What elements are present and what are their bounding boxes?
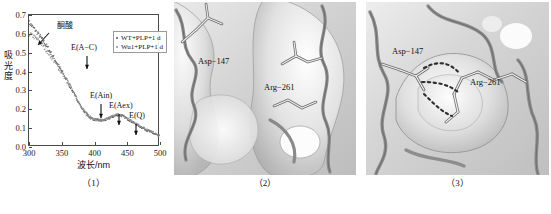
y-axis-label: 吸光度 xyxy=(2,50,14,82)
molecular-surface-2: Asp−147 Arg−261 xyxy=(174,2,356,175)
panel-absorbance-spectrum: 吸光度 3003504004505000.00.10.20.30.40.50.6… xyxy=(0,0,172,214)
x-tick-mark xyxy=(160,142,161,145)
x-tick-label: 400 xyxy=(88,148,101,158)
annotation-label-5: E(Q) xyxy=(129,111,145,120)
annotation-arrow-head-2 xyxy=(85,65,89,69)
y-tick-mark xyxy=(29,53,32,54)
annotation-arrow-head-5 xyxy=(134,131,138,135)
y-tick-label: 0.3 xyxy=(15,85,29,95)
y-tick-mark xyxy=(29,90,32,91)
panel1-caption: （1） xyxy=(28,176,159,189)
annotation-arrow-head-4 xyxy=(117,121,121,125)
y-tick-mark xyxy=(29,34,32,35)
y-tick-label: 0.4 xyxy=(15,67,29,77)
y-tick-mark xyxy=(29,109,32,110)
panel2-caption: （2） xyxy=(174,176,356,189)
x-axis-label: 波长/nm xyxy=(28,158,159,171)
legend-marker-wt xyxy=(116,37,118,39)
molecular-surface-3: Asp−147 Arg−261 xyxy=(366,2,549,175)
surface-pocket xyxy=(189,95,258,164)
y-tick-label: 0.7 xyxy=(15,10,29,20)
y-tick-mark xyxy=(29,128,32,129)
label-arg-261-panel3: Arg−261 xyxy=(470,77,501,87)
annotation-arrow-head-3 xyxy=(99,114,103,118)
y-tick-mark xyxy=(29,72,32,73)
x-tick-mark xyxy=(127,142,128,145)
specular-highlight-1 xyxy=(500,23,532,49)
x-tick-label: 500 xyxy=(154,148,167,158)
legend-label-wt: WT+PLP+1 d xyxy=(121,34,161,42)
legend: WT+PLP+1 d Wu1+PLP+1 d xyxy=(113,31,167,53)
x-tick-label: 450 xyxy=(121,148,134,158)
x-tick-mark xyxy=(29,142,30,145)
label-arg-261-panel2: Arg−261 xyxy=(264,82,295,92)
panel-structure-open: Asp−147 Arg−261 xyxy=(174,2,356,175)
legend-label-mutant: Wu1+PLP+1 d xyxy=(121,43,163,51)
y-tick-mark xyxy=(29,15,32,16)
annotation-label-1: 酮酸 xyxy=(57,19,73,30)
panel-structure-saltbridge: Asp−147 Arg−261 xyxy=(366,2,549,175)
y-tick-label: 0.6 xyxy=(15,29,29,39)
legend-marker-mutant xyxy=(116,46,118,48)
x-tick-mark xyxy=(62,142,63,145)
plot-area: 3003504004505000.00.10.20.30.40.50.60.7 … xyxy=(28,14,159,146)
y-tick-mark xyxy=(29,147,32,148)
annotation-label-3: E(Ain) xyxy=(90,91,112,100)
y-tick-label: 0.0 xyxy=(15,142,29,152)
annotation-label-2: E(A−C) xyxy=(71,43,97,52)
legend-item-mutant: Wu1+PLP+1 d xyxy=(116,42,163,51)
x-tick-label: 350 xyxy=(55,148,68,158)
y-tick-label: 0.1 xyxy=(15,123,29,133)
specular-highlight-2 xyxy=(482,16,502,32)
legend-item-wt: WT+PLP+1 d xyxy=(116,33,163,42)
figure-container: 吸光度 3003504004505000.00.10.20.30.40.50.6… xyxy=(0,0,551,214)
x-tick-mark xyxy=(95,142,96,145)
panel3-caption: （3） xyxy=(366,176,549,189)
y-tick-label: 0.5 xyxy=(15,48,29,58)
y-tick-label: 0.2 xyxy=(15,104,29,114)
label-asp-147-panel2: Asp−147 xyxy=(198,56,229,66)
annotation-label-4: E(Aex) xyxy=(109,101,133,110)
label-asp-147-panel3: Asp−147 xyxy=(392,46,423,56)
